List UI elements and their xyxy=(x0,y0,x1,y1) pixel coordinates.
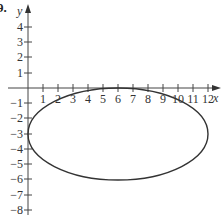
y-tick-label: 1 xyxy=(17,66,23,80)
y-tick-label: −3 xyxy=(10,127,23,141)
x-tick-label: 11 xyxy=(187,92,199,106)
y-tick-labels: 4 3 2 1 −1 −2 −3 −4 −5 −6 −7 −8 xyxy=(10,20,23,215)
y-tick-label: −6 xyxy=(10,172,23,186)
y-tick-label: −8 xyxy=(10,203,23,215)
y-tick-label: 4 xyxy=(17,20,23,34)
ellipse-graph: 9. x y 1 2 3 4 5 6 7 8 9 10 11 12 4 xyxy=(0,0,223,215)
x-tick-label: 1 xyxy=(40,92,46,106)
y-tick-label: −5 xyxy=(10,157,23,171)
y-axis-label: y xyxy=(16,4,23,18)
problem-number: 9. xyxy=(0,0,7,15)
x-tick-labels: 1 2 3 4 5 6 7 8 9 10 11 12 xyxy=(40,92,214,106)
x-tick-label: 5 xyxy=(100,92,106,106)
x-tick-label: 6 xyxy=(115,92,121,106)
y-tick-label: −1 xyxy=(10,96,23,110)
x-tick-label: 8 xyxy=(145,92,151,106)
y-tick-label: −7 xyxy=(10,188,23,202)
x-tick-label: 12 xyxy=(202,92,214,106)
y-axis-arrow-icon xyxy=(25,4,31,13)
y-tick-label: 2 xyxy=(17,50,23,64)
y-tick-label: 3 xyxy=(17,35,23,49)
x-tick-label: 7 xyxy=(130,92,136,106)
y-tick-label: −4 xyxy=(10,142,23,156)
x-tick-label: 4 xyxy=(85,92,91,106)
y-tick-label: −2 xyxy=(10,111,23,125)
